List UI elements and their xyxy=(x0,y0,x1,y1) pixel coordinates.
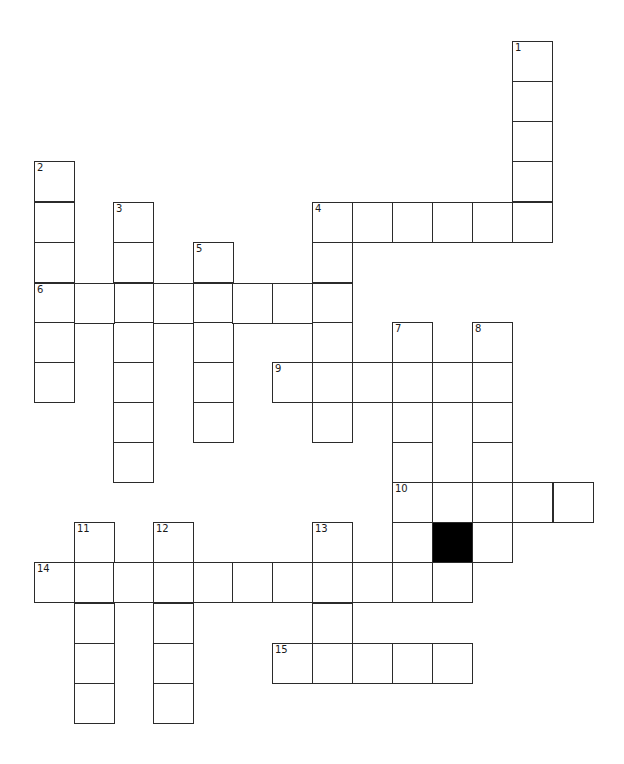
crossword-cell[interactable] xyxy=(392,522,433,563)
crossword-cell[interactable] xyxy=(34,242,75,283)
crossword-cell[interactable]: 14 xyxy=(34,562,75,603)
crossword-cell[interactable] xyxy=(312,603,353,644)
crossword-cell[interactable] xyxy=(352,643,393,684)
crossword-cell[interactable] xyxy=(432,482,473,523)
crossword-cell[interactable]: 8 xyxy=(472,322,513,363)
crossword-cell[interactable] xyxy=(553,482,594,523)
crossword-cell[interactable] xyxy=(472,522,513,563)
crossword-cell[interactable]: 3 xyxy=(113,202,154,243)
crossword-cell[interactable] xyxy=(352,562,393,603)
crossword-cell[interactable]: 7 xyxy=(392,322,433,363)
crossword-cell[interactable] xyxy=(113,442,154,483)
crossword-cell[interactable] xyxy=(312,643,353,684)
crossword-cell[interactable] xyxy=(193,362,234,403)
crossword-cell[interactable] xyxy=(312,362,353,403)
clue-number: 14 xyxy=(37,563,50,575)
crossword-cell[interactable]: 9 xyxy=(272,362,313,403)
crossword-cell[interactable] xyxy=(472,402,513,443)
crossword-cell[interactable] xyxy=(74,562,115,603)
crossword-cell[interactable] xyxy=(472,482,513,523)
crossword-cell[interactable]: 4 xyxy=(312,202,353,243)
crossword-cell[interactable] xyxy=(472,202,513,243)
crossword-cell[interactable] xyxy=(74,603,115,644)
crossword-cell[interactable] xyxy=(113,283,154,324)
crossword-cell[interactable]: 5 xyxy=(193,242,234,283)
crossword-cell[interactable] xyxy=(432,562,473,603)
crossword-cell[interactable] xyxy=(312,283,353,324)
crossword-cell[interactable] xyxy=(312,402,353,443)
clue-number: 7 xyxy=(395,323,401,335)
clue-number: 13 xyxy=(315,523,328,535)
crossword-cell[interactable] xyxy=(74,683,115,724)
crossword-cell[interactable] xyxy=(392,562,433,603)
crossword-cell[interactable] xyxy=(312,562,353,603)
clue-number: 6 xyxy=(37,284,43,296)
crossword-cell[interactable] xyxy=(34,362,75,403)
crossword-cell[interactable] xyxy=(113,242,154,283)
crossword-cell[interactable] xyxy=(34,322,75,363)
crossword-cell[interactable] xyxy=(392,362,433,403)
crossword-cell[interactable] xyxy=(512,81,553,122)
crossword-cell[interactable] xyxy=(472,442,513,483)
crossword-cell[interactable] xyxy=(74,643,115,684)
clue-number: 9 xyxy=(275,363,281,375)
crossword-cell[interactable] xyxy=(392,202,433,243)
clue-number: 5 xyxy=(196,243,202,255)
crossword-cell[interactable]: 6 xyxy=(34,283,75,324)
clue-number: 10 xyxy=(395,483,408,495)
crossword-cell[interactable] xyxy=(432,362,473,403)
crossword-cell[interactable] xyxy=(153,643,194,684)
crossword-cell[interactable] xyxy=(272,283,313,324)
crossword-cell[interactable] xyxy=(193,283,234,324)
crossword-cell[interactable]: 15 xyxy=(272,643,313,684)
clue-number: 3 xyxy=(116,203,122,215)
crossword-cell[interactable] xyxy=(352,362,393,403)
crossword-cell[interactable] xyxy=(113,402,154,443)
crossword-cell[interactable] xyxy=(113,362,154,403)
crossword-cell[interactable]: 13 xyxy=(312,522,353,563)
crossword-cell[interactable] xyxy=(392,442,433,483)
crossword-cell[interactable] xyxy=(312,322,353,363)
crossword-cell[interactable]: 12 xyxy=(153,522,194,563)
crossword-cell[interactable] xyxy=(312,242,353,283)
crossword-cell[interactable]: 11 xyxy=(74,522,115,563)
crossword-cell[interactable] xyxy=(74,283,115,324)
clue-number: 2 xyxy=(37,162,43,174)
crossword-cell[interactable] xyxy=(432,202,473,243)
crossword-cell[interactable] xyxy=(153,283,194,324)
clue-number: 1 xyxy=(515,42,521,54)
crossword-cell[interactable] xyxy=(34,202,75,243)
crossword-cell[interactable] xyxy=(113,562,154,603)
crossword-cell[interactable] xyxy=(193,402,234,443)
clue-number: 8 xyxy=(475,323,481,335)
crossword-cell[interactable] xyxy=(512,202,553,243)
crossword-cell[interactable] xyxy=(392,643,433,684)
black-square xyxy=(432,522,473,563)
crossword-cell[interactable]: 10 xyxy=(392,482,433,523)
crossword-cell[interactable] xyxy=(512,482,553,523)
crossword-cell[interactable] xyxy=(512,161,553,202)
clue-number: 15 xyxy=(275,644,288,656)
crossword-cell[interactable] xyxy=(432,643,473,684)
crossword-cell[interactable] xyxy=(352,202,393,243)
crossword-cell[interactable] xyxy=(153,562,194,603)
crossword-cell[interactable] xyxy=(472,362,513,403)
crossword-grid: 126345710891112131415 xyxy=(0,0,624,764)
crossword-cell[interactable]: 1 xyxy=(512,41,553,82)
crossword-cell[interactable] xyxy=(193,322,234,363)
crossword-cell[interactable] xyxy=(232,562,273,603)
crossword-cell[interactable] xyxy=(193,562,234,603)
crossword-cell[interactable] xyxy=(153,683,194,724)
crossword-cell[interactable] xyxy=(512,121,553,162)
clue-number: 4 xyxy=(315,203,321,215)
crossword-cell[interactable] xyxy=(272,562,313,603)
crossword-cell[interactable]: 2 xyxy=(34,161,75,202)
clue-number: 11 xyxy=(77,523,90,535)
crossword-cell[interactable] xyxy=(153,603,194,644)
crossword-cell[interactable] xyxy=(113,322,154,363)
crossword-cell[interactable] xyxy=(392,402,433,443)
crossword-cell[interactable] xyxy=(232,283,273,324)
clue-number: 12 xyxy=(156,523,169,535)
